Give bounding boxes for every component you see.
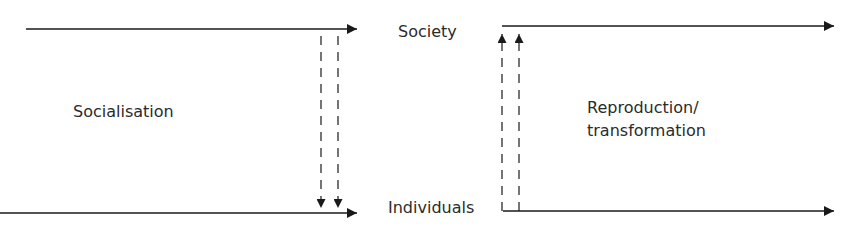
reproduction-label-line2: transformation — [587, 119, 706, 142]
society-label: Society — [398, 20, 457, 43]
socialisation-label: Socialisation — [73, 100, 174, 123]
reproduction-label-line1: Reproduction/ — [587, 96, 706, 119]
individuals-label: Individuals — [388, 196, 474, 219]
reproduction-transformation-label: Reproduction/ transformation — [587, 96, 706, 142]
